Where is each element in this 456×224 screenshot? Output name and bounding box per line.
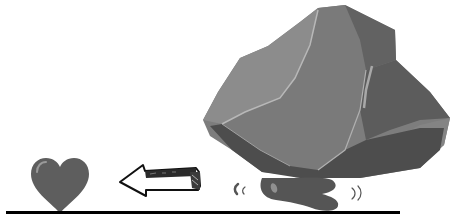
- illustration-scene: [0, 0, 456, 224]
- scene-canvas: [0, 0, 456, 224]
- heart-icon: [31, 158, 89, 213]
- rock-icon: [203, 5, 450, 178]
- squished-heart-icon: [261, 178, 339, 211]
- ground-line: [6, 211, 400, 214]
- arrow-left-icon: [120, 165, 200, 196]
